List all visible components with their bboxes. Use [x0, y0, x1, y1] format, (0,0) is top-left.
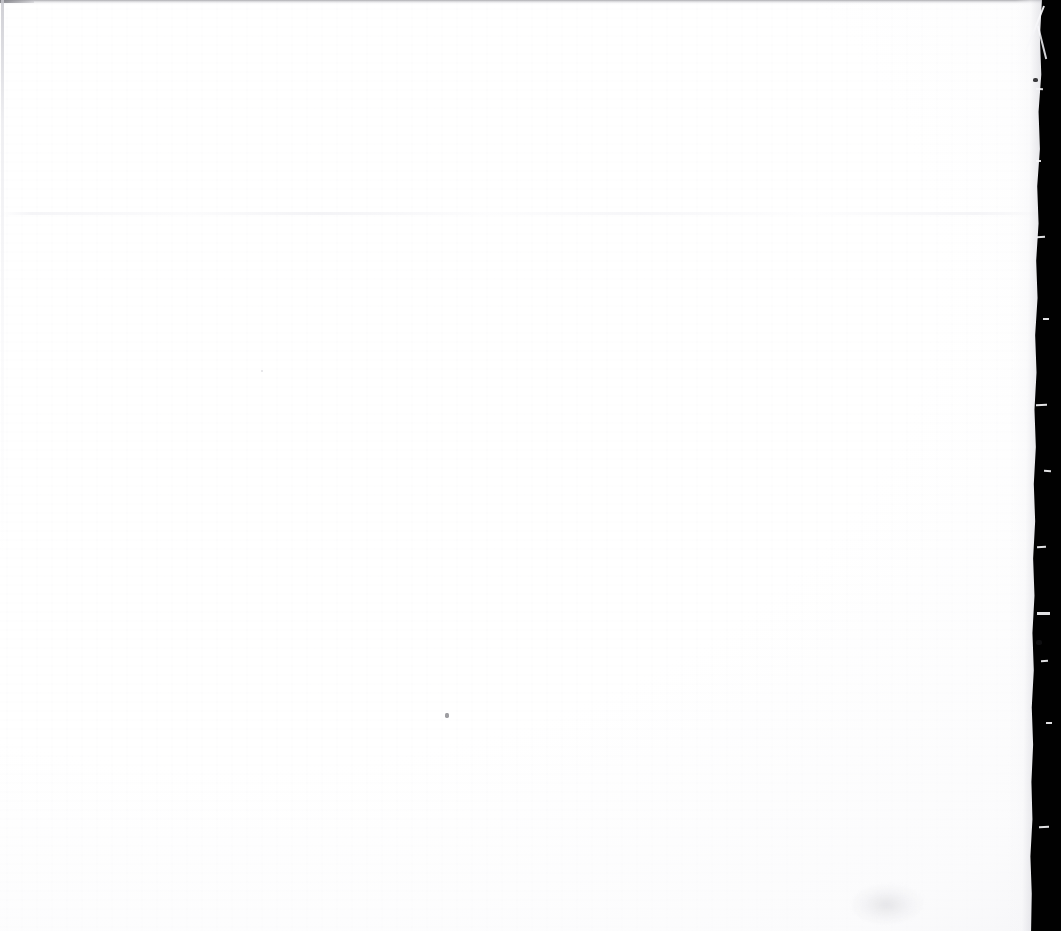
paper-edge-notch-secondary: [1036, 640, 1042, 645]
dust-speck: [445, 713, 449, 718]
paper-fiber: [1041, 660, 1048, 662]
scanned-page-canvas: [0, 0, 1061, 931]
paper-fiber: [1044, 470, 1051, 472]
top-edge-shadow: [0, 0, 1061, 5]
paper-fiber: [1039, 826, 1049, 828]
paper-fiber: [1037, 236, 1045, 238]
fold-crease-line: [0, 212, 1061, 215]
paper-fiber: [1046, 722, 1052, 724]
paper-sheet: [0, 0, 1061, 931]
paper-fiber: [1036, 160, 1041, 162]
page-content-region: [30, 30, 1020, 890]
paper-fiber: [1037, 612, 1050, 615]
paper-fiber: [1043, 318, 1049, 320]
paper-fiber: [1036, 88, 1043, 90]
paper-edge-notch: [1033, 78, 1038, 82]
left-edge-line: [1, 0, 4, 560]
paper-fiber: [1036, 404, 1047, 406]
dust-speck-secondary: [261, 370, 263, 372]
